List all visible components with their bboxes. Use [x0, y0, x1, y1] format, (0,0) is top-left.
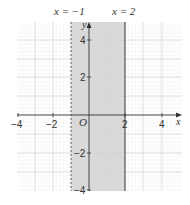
x-tick-label: 4 [159, 119, 165, 130]
shaded-region [71, 22, 125, 191]
x-tick-label: −2 [46, 119, 58, 130]
origin-label: O [79, 116, 87, 128]
label-x-2: x = 2 [111, 5, 136, 17]
x-tick-label: 2 [122, 119, 128, 130]
x-axis-label: x [175, 116, 181, 127]
y-tick-label: −4 [74, 185, 86, 196]
y-tick-label: −2 [74, 148, 86, 159]
y-axis-label: y [81, 19, 87, 30]
x-tick-label: −4 [11, 119, 23, 130]
y-tick-label: 2 [80, 72, 86, 83]
y-tick-label: 4 [80, 35, 86, 46]
coordinate-diagram: x = −1 x = 2 −4 −2 2 4 4 2 −2 −4 O x y [0, 0, 190, 205]
label-x-minus-1: x = −1 [53, 5, 85, 17]
